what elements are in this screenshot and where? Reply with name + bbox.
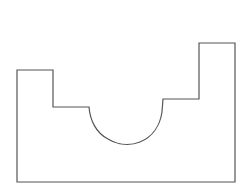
block-profile-outline	[17, 43, 235, 182]
profile-diagram	[0, 0, 251, 196]
